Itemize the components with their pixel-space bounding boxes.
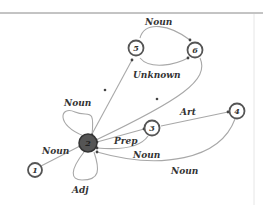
svg-text:5: 5 [133,43,139,53]
label-noun-3-2: Noun [132,150,160,160]
node-5: 5 [129,41,144,56]
svg-text:3: 3 [149,123,155,133]
label-noun-1-2: Noun [41,146,69,156]
edge-2-loop-noun [63,111,93,136]
edge-2-loop-adj [73,152,97,180]
edge-5-6-unknown [140,58,188,65]
state-diagram: 1 2 3 4 5 6 Noun Unknown Noun Art Prep N… [0,0,263,210]
label-adj-loop: Adj [71,185,89,195]
edge-2-5 [92,60,132,134]
node-1: 1 [28,163,42,177]
edge-5-6-noun [140,26,190,40]
svg-text:4: 4 [234,106,240,116]
svg-text:6: 6 [192,45,198,55]
node-3: 3 [145,121,160,136]
label-noun-loop: Noun [63,98,91,108]
arrow-tips [79,39,230,154]
label-unknown-5-6: Unknown [133,70,180,80]
svg-text:2: 2 [84,138,91,148]
node-4: 4 [230,104,245,119]
label-prep-3-2: Prep [113,136,138,146]
label-art-3-4: Art [179,107,197,117]
label-noun-4-2: Noun [170,166,198,176]
node-6: 6 [188,43,203,58]
svg-text:1: 1 [32,165,38,175]
node-2-hub: 2 [79,134,97,152]
label-noun-5-6: Noun [144,17,172,27]
